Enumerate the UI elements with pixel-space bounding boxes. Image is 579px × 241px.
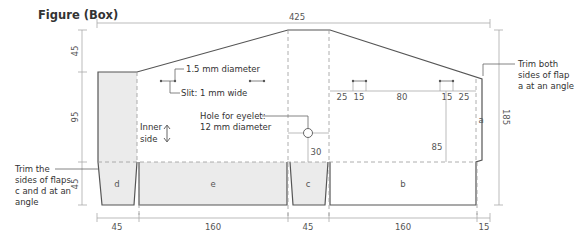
dim-left-45-bottom: 45: [70, 179, 80, 190]
dim-slit-25-right: 25: [459, 92, 470, 102]
slit-dimensions: 25 15 80 15 25 85: [330, 80, 476, 162]
eyelet-note-line2: 12 mm diameter: [200, 122, 272, 132]
trim-cd-line4: angle: [15, 197, 39, 207]
top-dimension: 425: [97, 12, 490, 28]
trim-cd-line1: Trim the: [14, 164, 50, 174]
trim-cd-line3: c and d at an: [15, 186, 71, 196]
flap-c-label: c: [306, 179, 311, 189]
trim-a-line1: Trim both: [517, 59, 558, 69]
flap-b-label: b: [400, 179, 405, 189]
left-dimension: 45 95 45: [70, 30, 87, 205]
trim-a-line2: sides of flap: [518, 70, 569, 80]
dim-left-45-top: 45: [70, 46, 80, 57]
dim-bottom-160-b: 160: [395, 222, 411, 232]
dim-30: 30: [311, 147, 322, 157]
dim-185: 185: [501, 109, 511, 125]
inner-side-line2: side: [140, 134, 157, 144]
trim-a-line3: a at an angle: [518, 81, 574, 91]
flap-a-label: a: [478, 115, 483, 125]
dim-425: 425: [289, 12, 305, 22]
eyelet-hole: 30: [262, 116, 329, 162]
trim-cd-line2: sides of flaps: [15, 175, 71, 185]
dim-bottom-45-a: 45: [112, 222, 123, 232]
box-net-diagram: 425 45 95 45 185 45 160 45 160 15: [0, 0, 579, 241]
dim-bottom-45-b: 45: [303, 222, 314, 232]
dim-left-95: 95: [70, 112, 80, 123]
dim-slit-15-right: 15: [442, 92, 453, 102]
right-dimension: 185: [494, 30, 511, 205]
dim-slit-25-left: 25: [337, 92, 348, 102]
inner-side-line1: Inner: [140, 122, 163, 132]
double-arrow-icon: [164, 125, 170, 142]
eyelet-note-line1: Hole for eyelet:: [200, 111, 266, 121]
dim-bottom-160-a: 160: [205, 222, 221, 232]
dim-slit-80: 80: [397, 92, 408, 102]
flap-e-label: e: [210, 179, 215, 189]
dim-slit-15-left: 15: [354, 92, 365, 102]
bottom-dimension: 45 160 45 160 15: [97, 213, 490, 232]
slit-note: Slit: 1 mm wide: [181, 88, 247, 98]
flap-d-label: d: [114, 179, 119, 189]
dim-85: 85: [432, 142, 443, 152]
dim-bottom-15: 15: [479, 222, 490, 232]
hole-diameter-note: 1.5 mm diameter: [186, 64, 261, 74]
